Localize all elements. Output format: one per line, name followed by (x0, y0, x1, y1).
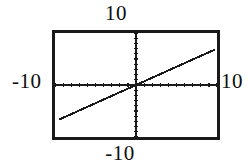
y-axis-min-label: -10 (0, 143, 250, 164)
x-axis-min-label: -10 (12, 71, 42, 92)
x-axis-max-label: 10 (221, 71, 243, 92)
plot-frame (52, 30, 220, 140)
graphing-calculator-screenshot: 10 -10 10 -10 (0, 0, 250, 165)
y-axis-max-label: 10 (0, 3, 250, 24)
plot-svg (55, 33, 217, 137)
plot-area (55, 33, 217, 137)
